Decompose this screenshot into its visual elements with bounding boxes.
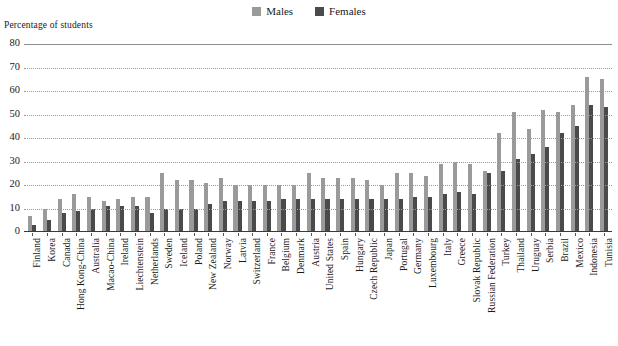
bar-females[interactable]	[501, 171, 505, 232]
bar-females[interactable]	[340, 199, 344, 232]
bar-females[interactable]	[589, 105, 593, 232]
bar-females[interactable]	[355, 199, 359, 232]
bar-females[interactable]	[487, 173, 491, 232]
x-label-cell: Slovak Republic	[465, 236, 480, 344]
y-tick-label: 70	[10, 61, 21, 71]
bar-females[interactable]	[384, 199, 388, 232]
x-label-cell: United States	[318, 236, 333, 344]
bar-females[interactable]	[575, 126, 579, 232]
x-axis-tick	[413, 233, 414, 236]
x-axis-tick	[428, 233, 429, 236]
legend-swatch-icon	[252, 7, 261, 16]
bar-females[interactable]	[194, 209, 198, 233]
y-tick-label: 80	[10, 38, 21, 49]
bar-females[interactable]	[399, 199, 403, 232]
bar-females[interactable]	[311, 199, 315, 232]
bar-females[interactable]	[545, 147, 549, 232]
x-axis-tick	[91, 233, 92, 236]
x-label-cell: Japan	[377, 236, 392, 344]
x-axis-tick	[384, 233, 385, 236]
bar-females[interactable]	[252, 201, 256, 232]
y-tick-label: 30	[10, 155, 21, 166]
x-axis-tick	[179, 233, 180, 236]
gridline-50	[24, 115, 612, 116]
bar-females[interactable]	[62, 213, 66, 232]
x-label-cell: Finland	[25, 236, 40, 344]
x-axis-tick	[516, 233, 517, 236]
x-axis-tick	[32, 233, 33, 236]
bar-females[interactable]	[223, 201, 227, 232]
x-label-cell: Latvia	[230, 236, 245, 344]
x-axis-tick	[311, 233, 312, 236]
x-label-cell: Greece	[450, 236, 465, 344]
x-axis-tick	[340, 233, 341, 236]
bar-females[interactable]	[164, 209, 168, 233]
x-label-cell: Hong Kong-China	[69, 236, 84, 344]
x-label-cell: Russian Federation	[479, 236, 494, 344]
x-label-cell: Korea	[40, 236, 55, 344]
x-label-cell: Turkey	[494, 236, 509, 344]
bar-females[interactable]	[472, 194, 476, 232]
x-label-cell: Denmark	[289, 236, 304, 344]
bar-females[interactable]	[281, 199, 285, 232]
bar-females[interactable]	[516, 159, 520, 232]
bar-females[interactable]	[531, 154, 535, 232]
x-axis-tick	[575, 233, 576, 236]
x-label-cell: Iceland	[172, 236, 187, 344]
bar-females[interactable]	[604, 107, 608, 232]
x-label-cell: Italy	[435, 236, 450, 344]
x-axis-tick	[531, 233, 532, 236]
plot-area: 80706050403020100	[24, 44, 612, 232]
gridline-40	[24, 138, 612, 139]
legend-label: Females	[329, 5, 366, 17]
x-label-cell: Liechtenstein	[128, 236, 143, 344]
legend-males[interactable]: Males	[252, 5, 293, 17]
bar-females[interactable]	[428, 197, 432, 232]
x-axis-tick	[472, 233, 473, 236]
x-label-cell: Portugal	[391, 236, 406, 344]
x-axis-tick	[164, 233, 165, 236]
x-label-cell: Macao-China	[98, 236, 113, 344]
bar-females[interactable]	[413, 197, 417, 232]
x-label-cell: France	[260, 236, 275, 344]
x-axis-tick	[369, 233, 370, 236]
bar-females[interactable]	[150, 213, 154, 232]
bar-females[interactable]	[296, 199, 300, 232]
gridline-10	[24, 209, 612, 210]
x-label-cell: Norway	[216, 236, 231, 344]
x-label-cell: Austria	[303, 236, 318, 344]
x-label-cell: Germany	[406, 236, 421, 344]
x-axis-tick	[501, 233, 502, 236]
bar-females[interactable]	[457, 192, 461, 232]
x-axis-tick	[399, 233, 400, 236]
bar-females[interactable]	[120, 206, 124, 232]
bar-females[interactable]	[91, 209, 95, 233]
legend-females[interactable]: Females	[315, 5, 366, 17]
bar-females[interactable]	[238, 201, 242, 232]
bar-females[interactable]	[560, 133, 564, 232]
x-label-cell: Australia	[84, 236, 99, 344]
x-axis-tick	[604, 233, 605, 236]
bar-females[interactable]	[179, 209, 183, 233]
bar-females[interactable]	[267, 201, 271, 232]
gridline-30	[24, 162, 612, 163]
legend-label: Males	[266, 5, 293, 17]
x-label-cell: Thailand	[509, 236, 524, 344]
x-axis-tick	[120, 233, 121, 236]
x-label-cell: Ireland	[113, 236, 128, 344]
bar-females[interactable]	[135, 206, 139, 232]
bar-females[interactable]	[76, 211, 80, 232]
gridline-80	[24, 44, 612, 45]
y-tick-label: 60	[10, 85, 21, 96]
bar-females[interactable]	[443, 194, 447, 232]
x-label-cell: Sweden	[157, 236, 172, 344]
x-label-cell: Mexico	[567, 236, 582, 344]
bar-females[interactable]	[325, 199, 329, 232]
x-label-cell: New Zealand	[201, 236, 216, 344]
bar-females[interactable]	[106, 206, 110, 232]
gridline-70	[24, 68, 612, 69]
bar-females[interactable]	[369, 199, 373, 232]
x-axis-tick	[47, 233, 48, 236]
x-label-cell: Czech Republic	[362, 236, 377, 344]
x-label-cell: Hungary	[347, 236, 362, 344]
